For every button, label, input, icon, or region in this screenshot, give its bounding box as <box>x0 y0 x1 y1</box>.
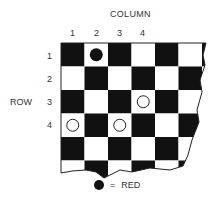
dark-square <box>202 90 217 114</box>
dark-square <box>155 90 179 114</box>
dark-square <box>179 161 203 185</box>
red-piece <box>90 48 103 61</box>
dark-square <box>202 137 217 161</box>
legend: = RED <box>94 180 140 190</box>
dark-square <box>61 43 85 67</box>
light-square <box>108 67 132 91</box>
red-piece-legend-icon <box>94 180 104 190</box>
dark-square <box>132 67 156 91</box>
dark-square <box>179 67 203 91</box>
dark-square <box>85 114 109 138</box>
dark-square <box>61 137 85 161</box>
light-square <box>179 137 203 161</box>
light-square <box>179 90 203 114</box>
light-square <box>155 114 179 138</box>
light-square <box>179 43 203 67</box>
light-square <box>132 137 156 161</box>
light-square <box>202 114 217 138</box>
legend-label: RED <box>121 180 140 190</box>
dark-square <box>155 137 179 161</box>
dark-square <box>155 43 179 67</box>
dark-square <box>108 137 132 161</box>
light-square <box>61 67 85 91</box>
legend-equals: = <box>110 180 115 190</box>
light-square <box>132 43 156 67</box>
light-square <box>202 67 217 91</box>
light-square <box>132 90 156 114</box>
checkerboard <box>0 0 217 203</box>
light-square <box>85 90 109 114</box>
light-square <box>108 114 132 138</box>
dark-square <box>108 43 132 67</box>
dark-square <box>108 90 132 114</box>
light-square <box>61 114 85 138</box>
dark-square <box>132 114 156 138</box>
light-square <box>85 137 109 161</box>
light-square <box>155 67 179 91</box>
dark-square <box>61 90 85 114</box>
light-square <box>155 161 179 185</box>
light-square <box>202 161 217 185</box>
dark-square <box>85 67 109 91</box>
